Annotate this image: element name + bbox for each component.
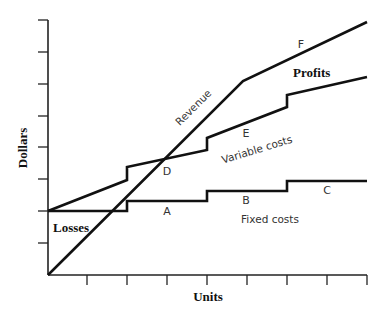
fixed-costs-label: Fixed costs — [241, 213, 299, 225]
annotation-b: B — [242, 194, 250, 207]
annotation-c: C — [323, 184, 331, 197]
y-axis-title: Dollars — [15, 128, 30, 168]
revenue-label: Revenue — [173, 87, 214, 128]
x-axis-title: Units — [193, 289, 223, 304]
y-ticks — [38, 20, 48, 243]
profits-label: Profits — [293, 65, 330, 80]
break-even-diagram: Dollars Units Losses Profits Revenue Var… — [0, 0, 385, 317]
variable-costs-label: Variable costs — [220, 133, 293, 166]
chart-svg: Dollars Units Losses Profits Revenue Var… — [0, 0, 385, 317]
fixed-costs-line — [48, 181, 367, 211]
annotation-d: D — [163, 165, 171, 178]
losses-label: Losses — [53, 220, 89, 235]
annotation-f: F — [298, 38, 304, 51]
annotation-a: A — [163, 205, 171, 218]
annotation-e: E — [243, 127, 250, 140]
x-ticks — [87, 275, 367, 285]
